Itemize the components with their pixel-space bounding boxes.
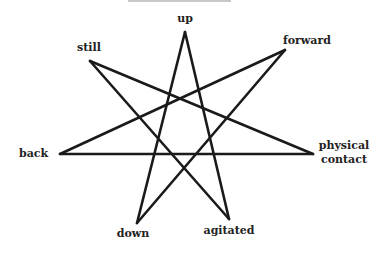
edge-physical-still [90, 61, 313, 154]
vertex-label-physical: physical [319, 139, 369, 152]
vertex-label-back: back [19, 147, 48, 160]
vertex-label-down: down [117, 227, 150, 240]
vertex-label-still: still [77, 41, 101, 54]
vertex-label-agitated: agitated [204, 224, 255, 237]
vertex-label-contact: contact [321, 153, 367, 166]
vertex-label-forward: forward [283, 34, 331, 47]
vertex-label-up: up [177, 12, 193, 25]
edge-up-agitated [185, 32, 229, 219]
